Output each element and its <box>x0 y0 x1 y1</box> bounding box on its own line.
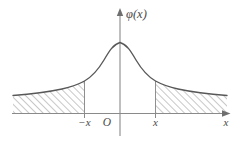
x-tick-label-right: x <box>152 116 158 128</box>
plot-canvas: φ(x) O −x x x <box>0 0 236 151</box>
x-tick-label-left: −x <box>78 116 90 128</box>
y-axis-label: φ(x) <box>126 7 147 21</box>
x-axis-label: x <box>223 116 229 128</box>
origin-label: O <box>103 116 112 128</box>
probability-density-figure: φ(x) O −x x x <box>0 0 236 151</box>
y-axis-arrow-icon <box>117 8 123 16</box>
